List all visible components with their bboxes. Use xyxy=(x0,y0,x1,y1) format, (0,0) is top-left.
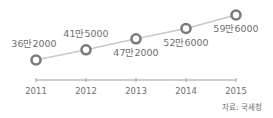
line-chart: 36만200041만500047만200052만600059만6000 2011… xyxy=(0,0,273,118)
data-point-marker xyxy=(132,34,141,43)
data-point-marker xyxy=(232,11,241,20)
data-label: 36만2000 xyxy=(11,38,56,49)
x-axis xyxy=(36,78,236,82)
data-point-marker xyxy=(32,56,41,65)
x-tick-labels: 20112012201320142015 xyxy=(25,86,247,96)
data-point-marker xyxy=(182,24,191,33)
source-note: 자료: 국세청 xyxy=(222,103,262,112)
data-label: 47만2000 xyxy=(113,47,158,58)
x-tick-label: 2013 xyxy=(125,86,147,96)
x-tick-label: 2012 xyxy=(75,86,97,96)
data-label: 59만6000 xyxy=(213,23,258,34)
data-label: 41만5000 xyxy=(63,28,108,39)
data-label: 52만6000 xyxy=(163,37,208,48)
x-tick-label: 2014 xyxy=(175,86,197,96)
x-tick-label: 2011 xyxy=(25,86,47,96)
data-point-marker xyxy=(82,45,91,54)
x-tick-label: 2015 xyxy=(225,86,247,96)
